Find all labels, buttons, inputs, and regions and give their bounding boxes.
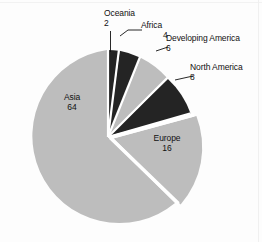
slice-label-north-america-name: North America [190, 62, 243, 72]
slice-label-europe: Europe 16 [145, 133, 189, 153]
slice-label-oceania: Oceania 2 [104, 8, 135, 28]
slice-label-oceania-name: Oceania [104, 8, 135, 18]
slice-label-africa-name: Africa [141, 20, 162, 30]
slice-label-developing-america-name: Developing America [166, 33, 240, 43]
slice-label-africa: Africa 4 [141, 20, 168, 40]
slice-label-developing-america-value: 6 [166, 43, 240, 53]
slice-label-oceania-value: 2 [104, 18, 135, 28]
slice-label-north-america: North America 8 [190, 62, 243, 82]
slice-label-asia-value: 64 [52, 102, 92, 112]
slice-label-europe-name: Europe [154, 133, 181, 143]
pie-chart-figure: Oceania 2 Africa 4 Developing America 6 … [0, 0, 262, 242]
slice-label-asia-name: Asia [64, 92, 80, 102]
leader-line-africa [120, 30, 142, 36]
slice-label-europe-value: 16 [145, 143, 189, 153]
slice-label-asia: Asia 64 [52, 92, 92, 112]
slice-label-developing-america: Developing America 6 [166, 33, 240, 53]
slice-label-north-america-value: 8 [190, 72, 243, 82]
